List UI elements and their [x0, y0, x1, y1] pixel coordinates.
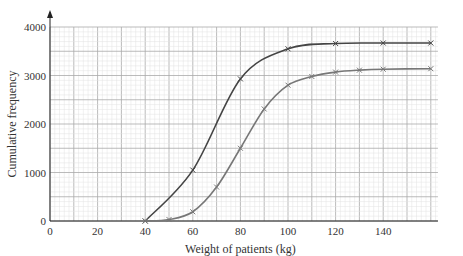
- y-tick-label: 1000: [24, 167, 47, 179]
- y-tick-label: 4000: [24, 21, 47, 33]
- x-tick-label: 80: [235, 225, 247, 237]
- x-axis-label: Weight of patients (kg): [185, 242, 296, 256]
- x-tick-label: 20: [92, 225, 104, 237]
- cumulative-frequency-chart: 02040608010012014001000200030004000Weigh…: [0, 0, 463, 256]
- x-tick-label: 60: [187, 225, 199, 237]
- x-tick-label: 140: [375, 225, 392, 237]
- y-axis-label: Cumulative frequency: [5, 71, 19, 178]
- x-tick-label: 0: [47, 225, 53, 237]
- x-tick-label: 120: [327, 225, 344, 237]
- y-tick-label: 2000: [24, 118, 47, 130]
- chart: 02040608010012014001000200030004000Weigh…: [0, 0, 463, 256]
- y-axis-arrow-icon: [47, 10, 53, 18]
- y-tick-label: 0: [41, 215, 47, 227]
- y-tick-label: 3000: [24, 70, 47, 82]
- x-tick-label: 40: [140, 225, 152, 237]
- x-tick-label: 100: [280, 225, 297, 237]
